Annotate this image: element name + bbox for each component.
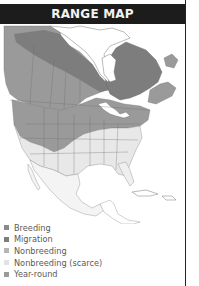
legend-label: Year-round (14, 269, 58, 279)
legend-item-year-round: Year-round (4, 268, 124, 280)
legend-label: Migration (14, 234, 53, 244)
legend-item-nonbreeding-scarce: Nonbreeding (scarce) (4, 257, 124, 269)
region-cuba (132, 190, 158, 196)
legend-item-nonbreeding: Nonbreeding (4, 245, 124, 257)
breeding-swatch-icon (4, 225, 9, 230)
range-map-panel: RANGE MAP (0, 0, 186, 286)
nonbreeding-scarce-swatch-icon (4, 260, 9, 265)
region-central-america (100, 200, 140, 224)
region-newfoundland (164, 54, 178, 68)
title-bar: RANGE MAP (0, 4, 185, 24)
legend-label: Breeding (14, 223, 51, 233)
year-round-swatch-icon (4, 272, 9, 277)
legend-label: Nonbreeding (14, 246, 67, 256)
map-title: RANGE MAP (51, 7, 134, 21)
north-america-map (0, 24, 185, 224)
legend-label: Nonbreeding (scarce) (14, 258, 102, 268)
legend-item-migration: Migration (4, 234, 124, 246)
map-legend: Breeding Migration Nonbreeding Nonbreedi… (4, 222, 124, 280)
legend-item-breeding: Breeding (4, 222, 124, 234)
nonbreeding-swatch-icon (4, 248, 9, 253)
migration-swatch-icon (4, 237, 9, 242)
region-hispaniola (162, 196, 176, 200)
